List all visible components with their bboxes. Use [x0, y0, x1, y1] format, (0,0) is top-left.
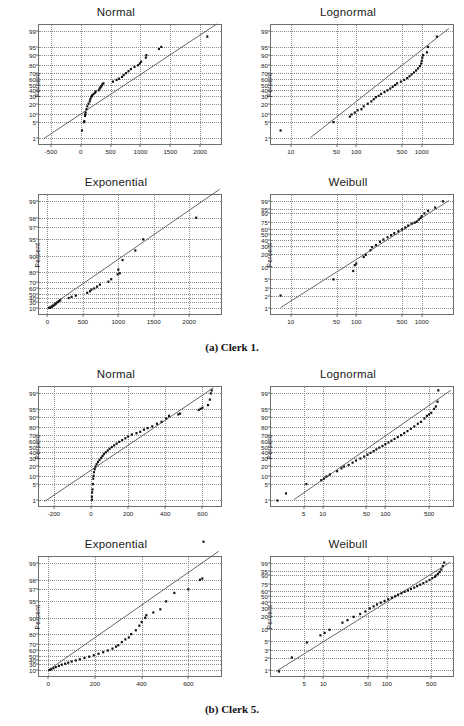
data-point — [117, 268, 119, 270]
data-point — [428, 579, 430, 581]
data-point — [413, 425, 415, 427]
data-point — [81, 129, 83, 131]
data-point — [94, 465, 96, 467]
x-tick-label: 10 — [320, 680, 327, 687]
y-tick-label: 20 — [29, 100, 36, 107]
y-tick-mark — [36, 601, 39, 602]
y-tick-label: 99 — [29, 28, 36, 35]
y-tick-mark — [36, 452, 39, 453]
y-tick-label: 90 — [29, 52, 36, 59]
y-tick-mark — [268, 458, 271, 459]
data-point — [381, 445, 383, 447]
data-point — [141, 621, 143, 623]
x-tick-label: 0 — [46, 318, 49, 325]
data-point — [147, 427, 149, 429]
data-point — [93, 471, 95, 473]
data-point — [352, 462, 354, 464]
plot-axes: Percent151020304050607080909599510501005… — [270, 386, 454, 507]
y-tick-mark — [36, 484, 39, 485]
y-tick-mark — [36, 217, 39, 218]
data-point — [280, 294, 282, 296]
data-point — [421, 60, 423, 62]
y-tick-label: 20 — [261, 250, 268, 257]
y-tick-label: 90 — [29, 414, 36, 421]
plot-title: Weibull — [232, 538, 464, 550]
y-tick-mark — [36, 417, 39, 418]
x-tick-mark — [128, 506, 129, 509]
data-point — [89, 100, 91, 102]
data-point — [103, 453, 105, 455]
data-points — [39, 557, 221, 676]
data-point — [96, 286, 98, 288]
x-tick-label: 2000 — [182, 318, 196, 325]
y-tick-mark — [268, 657, 271, 658]
x-tick-label: 10 — [287, 148, 294, 155]
data-point — [107, 449, 109, 451]
data-point — [332, 278, 334, 280]
plot-title: Lognormal — [232, 6, 464, 18]
data-point — [378, 447, 380, 449]
data-point — [332, 121, 334, 123]
y-tick-mark — [36, 427, 39, 428]
y-tick-mark — [268, 84, 271, 85]
data-point — [87, 103, 89, 105]
y-tick-mark — [268, 563, 271, 564]
data-point — [384, 600, 386, 602]
y-tick-mark — [268, 446, 271, 447]
y-tick-mark — [36, 475, 39, 476]
data-point — [435, 574, 437, 576]
y-tick-label: 20 — [29, 462, 36, 469]
data-point — [140, 61, 142, 63]
x-tick-label: -200 — [48, 510, 60, 517]
y-tick-mark — [36, 113, 39, 114]
x-tick-mark — [53, 506, 54, 509]
data-point — [161, 421, 163, 423]
y-tick-label: 99 — [261, 390, 268, 397]
plot-axes: Percent151020304050607080909599-50005001… — [38, 24, 222, 145]
data-point — [144, 617, 146, 619]
y-tick-mark — [36, 65, 39, 66]
x-tick-label: -500 — [45, 148, 57, 155]
data-point — [278, 670, 280, 672]
y-tick-label: 70 — [29, 640, 36, 647]
y-tick-mark — [268, 65, 271, 66]
data-point — [369, 249, 371, 251]
x-tick-label: 2000 — [193, 148, 207, 155]
data-point — [159, 608, 161, 610]
y-tick-label: 60 — [29, 75, 36, 82]
data-point — [423, 417, 425, 419]
caption-clerk-1: (a) Clerk 1. — [0, 341, 464, 353]
x-tick-label: 50 — [364, 680, 371, 687]
data-point — [123, 74, 125, 76]
y-tick-mark — [36, 55, 39, 56]
x-tick-mark — [385, 506, 386, 509]
x-tick-label: 500 — [424, 510, 434, 517]
data-point — [118, 78, 120, 80]
y-tick-mark — [268, 234, 271, 235]
data-point — [145, 614, 147, 616]
data-point — [117, 273, 119, 275]
data-point — [403, 432, 405, 434]
x-tick-mark — [118, 314, 119, 317]
y-tick-mark — [268, 31, 271, 32]
data-point — [199, 579, 201, 581]
data-point — [187, 588, 189, 590]
data-point — [324, 632, 326, 634]
y-tick-label: 98 — [29, 576, 36, 583]
data-point — [211, 389, 213, 391]
y-tick-label: 5 — [33, 481, 36, 488]
data-point — [341, 622, 343, 624]
y-tick-mark — [268, 434, 271, 435]
x-tick-label: 1500 — [163, 148, 177, 155]
y-tick-label: 90 — [29, 614, 36, 621]
data-point — [165, 600, 167, 602]
data-point — [168, 415, 170, 417]
data-point — [373, 605, 375, 607]
y-tick-mark — [36, 408, 39, 409]
y-tick-label: 90 — [261, 414, 268, 421]
x-tick-mark — [356, 314, 357, 317]
x-tick-mark — [141, 676, 142, 679]
data-point — [336, 470, 338, 472]
data-point — [97, 461, 99, 463]
y-tick-label: 70 — [261, 69, 268, 76]
